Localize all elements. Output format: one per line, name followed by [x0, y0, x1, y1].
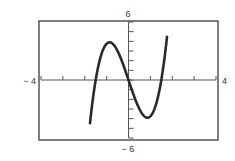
graph-window: 6 − 6 − 4 4: [0, 0, 235, 161]
ymax-label: 6: [125, 9, 130, 19]
xmin-label: − 4: [23, 76, 36, 86]
xmax-label: 4: [222, 76, 227, 86]
ymin-label: − 6: [122, 144, 135, 154]
